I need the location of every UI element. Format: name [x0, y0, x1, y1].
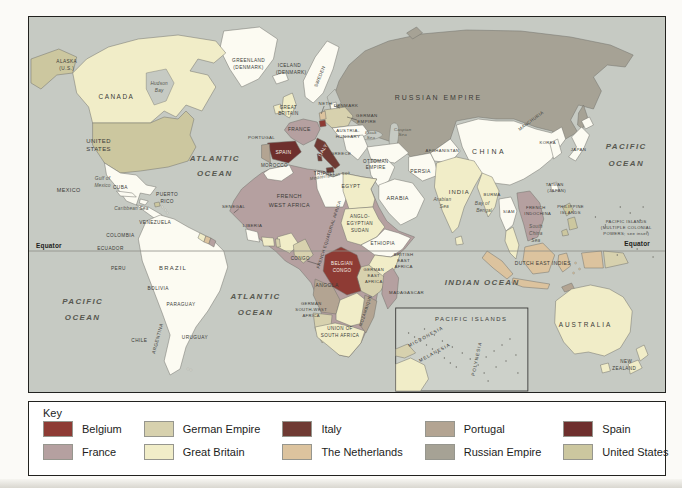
map-label: FRENCH	[277, 193, 302, 199]
region-belgium	[319, 120, 326, 127]
map-label: EGYPTIAN	[347, 221, 373, 226]
legend-label: Italy	[321, 423, 341, 435]
legend-swatch-great-britain	[144, 444, 174, 460]
map-label: PUERTO	[156, 192, 178, 197]
map-label: URUGUAY	[182, 335, 209, 340]
map-label: BELGIAN	[331, 261, 353, 266]
map-label: AUSTRALIA	[559, 321, 613, 328]
map-label: PERU	[111, 266, 126, 271]
legend-label: Spain	[602, 423, 630, 435]
map-label: GREECE	[331, 151, 352, 156]
world-map: ALASKA(U.S.)CANADAHudsonBayGREENLAND(DEN…	[28, 16, 666, 393]
map-label: PACIFIC ISLANDS	[606, 219, 647, 224]
map-label: Bay of	[475, 201, 490, 206]
map-label: SPAIN	[275, 149, 291, 155]
map-label: GERMAN	[364, 267, 385, 272]
map-label: EAST	[397, 258, 410, 263]
world-map-svg: ALASKA(U.S.)CANADAHudsonBayGREENLAND(DEN…	[29, 17, 665, 392]
legend-item: Italy	[282, 421, 402, 437]
region-gold-coast	[262, 237, 275, 246]
map-label: Hudson	[150, 81, 168, 86]
region-egypt	[343, 173, 377, 209]
map-label: EAST	[368, 273, 381, 278]
map-label: VENEZUELA	[139, 220, 171, 225]
map-label: Bay	[155, 88, 164, 93]
region-tasmania	[600, 363, 610, 373]
caribbean-island-dot	[164, 209, 166, 211]
map-label: ZEALAND	[612, 366, 636, 371]
map-label: ETHIOPIA	[371, 241, 396, 246]
scanned-atlas-page: { "colors": { "ocean": "#c6cac3", "land"…	[0, 0, 682, 488]
legend-item: The Netherlands	[282, 444, 402, 460]
map-label: POWERS; see inset)	[603, 231, 649, 236]
map-label: BRITISH	[394, 252, 414, 257]
legend-label: Russian Empire	[464, 446, 542, 458]
map-label: NEW	[620, 359, 632, 364]
map-label: UNITED	[86, 138, 111, 144]
map-label: ANGLO-	[350, 214, 370, 219]
map-label: PHILIPPINE	[557, 204, 584, 209]
map-label: RUSSIAN EMPIRE	[395, 94, 482, 101]
map-label: BRITAIN	[278, 111, 298, 116]
caribbean-island-dot	[161, 206, 163, 208]
legend-label: The Netherlands	[321, 446, 402, 458]
map-label: ICELAND	[278, 63, 302, 68]
legend-label: Portugal	[464, 423, 505, 435]
legend-swatch-belgium	[43, 421, 73, 437]
map-label: HUNGARY	[336, 134, 361, 139]
map-label: CONGO	[333, 268, 352, 273]
legend-swatch-italy	[282, 421, 312, 437]
region-puerto-rico	[154, 202, 160, 207]
map-label: ATLANTIC	[189, 154, 240, 163]
map-label: INDIA	[449, 189, 470, 195]
legend-title: Key	[43, 407, 653, 419]
map-label: DENMARK	[334, 103, 359, 108]
map-label: MOROCCO	[261, 163, 288, 168]
map-label: (JAPAN)	[547, 188, 566, 193]
map-label: COLOMBIA	[106, 233, 135, 238]
map-label: PORTUGAL	[248, 135, 275, 140]
map-label: KOREA	[539, 140, 556, 145]
map-label: Sea	[440, 204, 449, 209]
map-label: EGYPT	[342, 183, 361, 189]
map-label: Gulf of	[95, 176, 111, 181]
map-label: GREENLAND	[232, 58, 265, 63]
map-label: RICO	[160, 199, 173, 204]
map-label: ALASKA	[56, 59, 77, 64]
map-label: OCEAN	[608, 159, 644, 168]
map-label: GERMAN	[301, 301, 322, 306]
caribbean-island-dot	[166, 212, 168, 214]
falkland-dot	[187, 368, 189, 370]
map-label: WEST AFRICA	[269, 202, 310, 208]
map-label: SIAM	[503, 209, 515, 214]
moluccas-dot	[579, 268, 581, 270]
map-label: (DENMARK)	[276, 70, 307, 75]
legend-item: German Empire	[144, 421, 261, 437]
legend-grid: Belgium France German Empire Great Brita…	[43, 421, 653, 460]
map-label: BOLIVIA	[148, 286, 170, 291]
map-label: TRIPOLI	[314, 171, 335, 176]
map-label: Sea	[367, 135, 376, 140]
legend-swatch-france	[43, 444, 73, 460]
map-label: CHINA	[472, 148, 506, 155]
map-label: AFRICA	[302, 313, 320, 318]
map-label: AFGHANISTAN	[426, 148, 460, 153]
map-label: INDOCHINA	[524, 211, 551, 216]
legend: Key Belgium France German Empire Great B…	[28, 401, 666, 476]
region-togo	[275, 239, 280, 247]
legend-item: France	[43, 444, 122, 460]
map-label: SUDAN	[351, 228, 369, 233]
legend-swatch-portugal	[425, 421, 455, 437]
map-label: Caribbean Sea	[114, 206, 148, 211]
moluccas-dot	[573, 272, 575, 274]
map-label: SENEGAL	[222, 204, 246, 209]
map-label: SOUTH AFRICA	[321, 333, 360, 338]
legend-item: Great Britain	[144, 444, 261, 460]
legend-item: Russian Empire	[425, 444, 542, 460]
map-label: (U.S.)	[59, 66, 74, 71]
map-label: AFRICA	[394, 264, 412, 269]
map-label: INDIAN OCEAN	[445, 278, 520, 287]
map-label: JAPAN	[571, 147, 587, 152]
map-label: ISLANDS	[560, 210, 581, 215]
region-west-new-guinea	[582, 251, 604, 268]
